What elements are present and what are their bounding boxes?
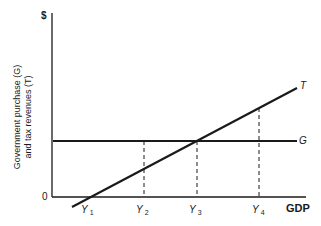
g-line-label: G	[299, 136, 307, 146]
x-tick-y4: Y4	[252, 205, 265, 216]
x-axis-title: GDP	[286, 203, 310, 214]
t-line	[72, 88, 297, 207]
y-axis-title-line2: and tax revenues (T)	[23, 42, 34, 192]
t-line-label: T	[300, 81, 306, 91]
origin-label: 0	[42, 192, 48, 202]
x-tick-y3: Y3	[189, 205, 202, 216]
x-tick-y1: Y1	[81, 205, 94, 216]
y-axis-title-line1: Government purchase (G)	[12, 42, 23, 192]
chart-canvas	[0, 0, 321, 226]
x-tick-y2: Y2	[136, 205, 149, 216]
y-axis-top-label: $	[41, 11, 47, 21]
y-axis-title: Government purchase (G) and tax revenues…	[12, 42, 34, 192]
